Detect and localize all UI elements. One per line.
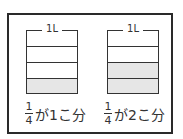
caption-left: 1 4 が1こ分 bbox=[25, 101, 86, 126]
container-walls bbox=[107, 30, 159, 94]
liter-container-left: 1L bbox=[26, 30, 78, 94]
fraction-numerator: 1 bbox=[105, 101, 112, 112]
caption-text: が2こ分 bbox=[114, 104, 165, 124]
liter-container-right: 1L bbox=[107, 30, 159, 94]
container-rim bbox=[62, 30, 78, 31]
fraction-numerator: 1 bbox=[26, 101, 33, 112]
fraction: 1 4 bbox=[25, 101, 33, 126]
container-rim bbox=[107, 30, 123, 31]
capacity-label: 1L bbox=[42, 23, 62, 35]
container-rim bbox=[26, 30, 42, 31]
capacity-label: 1L bbox=[123, 23, 143, 35]
fraction-denominator: 4 bbox=[26, 115, 33, 126]
fraction-denominator: 4 bbox=[105, 115, 112, 126]
container-rim bbox=[143, 30, 159, 31]
container-walls bbox=[26, 30, 78, 94]
caption-right: 1 4 が2こ分 bbox=[104, 101, 165, 126]
fraction: 1 4 bbox=[104, 101, 112, 126]
caption-text: が1こ分 bbox=[35, 104, 86, 124]
